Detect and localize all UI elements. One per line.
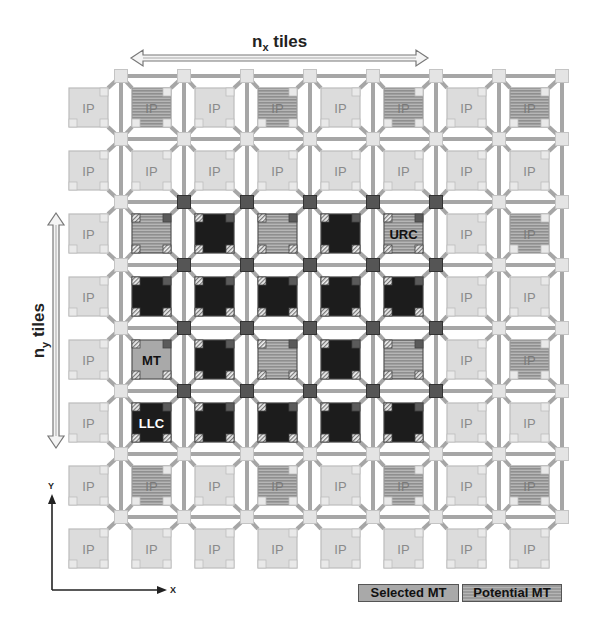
router bbox=[430, 448, 443, 461]
tile-port bbox=[384, 560, 392, 568]
tile-llc bbox=[195, 340, 234, 379]
tile-port bbox=[258, 560, 266, 568]
tile-label: IP bbox=[460, 101, 472, 116]
router bbox=[556, 385, 569, 398]
tile-ip: IP bbox=[510, 403, 549, 442]
tile-port bbox=[69, 371, 77, 379]
tile-port bbox=[447, 119, 455, 127]
router bbox=[556, 196, 569, 209]
tile-ip: IP bbox=[447, 403, 486, 442]
tile-port bbox=[289, 245, 297, 253]
tile-port bbox=[163, 529, 171, 537]
tile-port bbox=[226, 182, 234, 190]
mesh-svg: IPIPIPIPIPIPIPIPIPIPIPIPIPIPIPIPIPURCIPI… bbox=[0, 0, 596, 633]
tile-port bbox=[384, 497, 392, 505]
tile-port bbox=[415, 88, 423, 96]
tile-port bbox=[226, 277, 234, 285]
tile-port bbox=[415, 308, 423, 316]
tile-port bbox=[163, 308, 171, 316]
tile-port bbox=[384, 182, 392, 190]
tile-port bbox=[415, 340, 423, 348]
router bbox=[241, 70, 254, 83]
tile-label: IP bbox=[460, 542, 472, 557]
ny-tiles-label: ny tiles bbox=[29, 286, 50, 376]
tile-llc bbox=[132, 277, 171, 316]
router bbox=[493, 133, 506, 146]
tile-port bbox=[478, 88, 486, 96]
tile-port bbox=[100, 277, 108, 285]
tile-port bbox=[163, 497, 171, 505]
router bbox=[304, 448, 317, 461]
tile-port bbox=[100, 403, 108, 411]
tile-label: IP bbox=[523, 290, 535, 305]
tile-ip: IP bbox=[69, 277, 108, 316]
tile-port bbox=[447, 308, 455, 316]
tile-label: IP bbox=[271, 542, 283, 557]
tile-port bbox=[195, 403, 203, 411]
tile-port bbox=[352, 214, 360, 222]
tile-port bbox=[132, 214, 140, 222]
tile-port bbox=[100, 560, 108, 568]
tile-port bbox=[100, 308, 108, 316]
tile-label: IP bbox=[334, 164, 346, 179]
tile-port bbox=[163, 277, 171, 285]
tile-port bbox=[321, 308, 329, 316]
tile-port bbox=[100, 371, 108, 379]
router bbox=[556, 133, 569, 146]
router bbox=[115, 70, 128, 83]
tile-ip: IP bbox=[132, 529, 171, 568]
tile-label: IP bbox=[145, 479, 157, 494]
router bbox=[556, 259, 569, 272]
tile-port bbox=[415, 434, 423, 442]
tile-ip: IP bbox=[321, 88, 360, 127]
tile-port bbox=[321, 214, 329, 222]
tile-port bbox=[415, 466, 423, 474]
tile-label: IP bbox=[523, 542, 535, 557]
tile-port bbox=[258, 434, 266, 442]
router bbox=[556, 448, 569, 461]
router bbox=[115, 196, 128, 209]
tile-port bbox=[163, 403, 171, 411]
tile-port bbox=[541, 151, 549, 159]
tile-port bbox=[289, 182, 297, 190]
tile-port bbox=[132, 434, 140, 442]
tile-port bbox=[415, 529, 423, 537]
tile-port bbox=[510, 119, 518, 127]
tile-port bbox=[226, 434, 234, 442]
tile-port bbox=[541, 560, 549, 568]
tile-ip: IP bbox=[69, 403, 108, 442]
tile-port bbox=[226, 403, 234, 411]
tile-label: IP bbox=[208, 164, 220, 179]
tile-port bbox=[289, 308, 297, 316]
tile-port bbox=[195, 245, 203, 253]
tile-port bbox=[226, 340, 234, 348]
tile-port bbox=[321, 403, 329, 411]
tile-ip: IP bbox=[510, 151, 549, 190]
router bbox=[430, 511, 443, 524]
tile-port bbox=[258, 340, 266, 348]
tile-port bbox=[510, 371, 518, 379]
tile-port bbox=[478, 340, 486, 348]
tile-label: IP bbox=[334, 542, 346, 557]
tile-pmt-llc bbox=[258, 214, 297, 253]
tile-port bbox=[289, 88, 297, 96]
tile-port bbox=[321, 182, 329, 190]
router bbox=[304, 133, 317, 146]
tile-label: IP bbox=[82, 164, 94, 179]
tile-llc bbox=[321, 277, 360, 316]
tile-port bbox=[195, 371, 203, 379]
tile-smt: MT bbox=[132, 340, 171, 379]
tile-ip: IP bbox=[195, 151, 234, 190]
tile-port bbox=[478, 529, 486, 537]
tile-port bbox=[352, 340, 360, 348]
tile-label: LLC bbox=[139, 416, 165, 431]
tile-ip: IP bbox=[447, 151, 486, 190]
tile-port bbox=[100, 151, 108, 159]
tile-label: IP bbox=[523, 164, 535, 179]
tile-port bbox=[510, 434, 518, 442]
tile-port bbox=[226, 151, 234, 159]
tile-port bbox=[510, 497, 518, 505]
tile-ip: IP bbox=[195, 88, 234, 127]
tile-label: IP bbox=[82, 353, 94, 368]
router bbox=[556, 511, 569, 524]
